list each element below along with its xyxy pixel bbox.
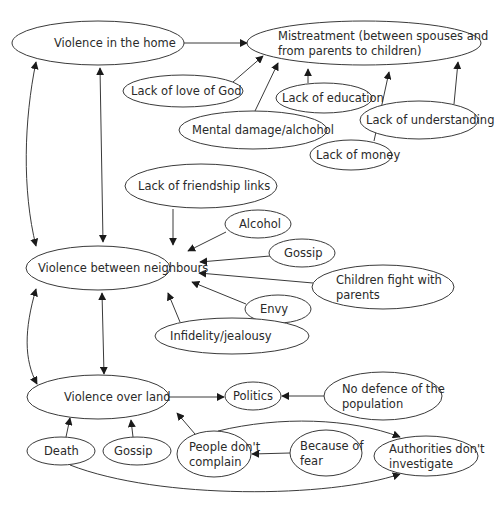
node-lack-education: Lack of education xyxy=(276,83,384,113)
edge-violence-home-to-violence-neighbours xyxy=(100,68,103,242)
edge-lack-understanding-to-mistreatment xyxy=(454,62,458,104)
node-label: Mental damage/alchohol xyxy=(192,123,334,137)
diagram-canvas: Violence in the homeMistreatment (betwee… xyxy=(0,0,503,509)
node-gossip-1: Gossip xyxy=(269,239,335,267)
node-label: Lack of understanding xyxy=(366,113,494,127)
node-lack-friendship: Lack of friendship links xyxy=(125,164,277,208)
node-label: Lack of friendship links xyxy=(138,179,270,193)
edge-mental-damage-to-mistreatment xyxy=(255,63,278,111)
node-label: investigate xyxy=(389,457,453,471)
node-violence-home: Violence in the home xyxy=(12,21,184,65)
node-lack-money: Lack of money xyxy=(310,140,400,170)
node-label: Mistreatment (between spouses and xyxy=(278,29,488,43)
node-label: Violence in the home xyxy=(54,36,176,50)
node-lack-understanding: Lack of understanding xyxy=(360,101,494,139)
edge-alcohol-to-violence-neighbours xyxy=(188,232,226,251)
node-label: Because of xyxy=(300,439,364,453)
node-no-defence: No defence of thepopulation xyxy=(324,372,445,420)
node-label: Envy xyxy=(260,302,288,316)
node-label: Children fight with xyxy=(336,273,442,287)
node-label: No defence of the xyxy=(342,382,445,396)
edge-gossip-1-to-violence-neighbours xyxy=(200,256,270,262)
edge-envy-to-violence-neighbours xyxy=(192,282,246,304)
node-label: Lack of love of God xyxy=(131,84,242,98)
edge-lack-love-god-to-mistreatment xyxy=(233,56,263,82)
node-because-fear: Because offear xyxy=(290,430,364,476)
edge-people-dont-complain-to-violence-land xyxy=(177,413,195,434)
node-infidelity: Infidelity/jealousy xyxy=(155,318,309,354)
node-mistreatment: Mistreatment (between spouses andfrom pa… xyxy=(247,21,488,65)
node-label: complain xyxy=(189,455,242,469)
edge-death-to-violence-land xyxy=(66,418,70,437)
node-label: Politics xyxy=(233,389,273,403)
node-violence-land: Violence over land xyxy=(27,375,171,419)
node-mental-damage: Mental damage/alchohol xyxy=(179,111,334,149)
node-label: Authorities don't xyxy=(389,442,485,456)
edge-violence-neighbours-to-violence-land xyxy=(27,289,37,384)
node-lack-love-god: Lack of love of God xyxy=(123,75,243,107)
nodes-layer: Violence in the homeMistreatment (betwee… xyxy=(12,21,494,477)
node-label: Lack of education xyxy=(282,91,384,105)
node-death: Death xyxy=(27,437,95,465)
node-label: from parents to children) xyxy=(278,44,422,58)
edge-infidelity-to-violence-neighbours xyxy=(168,293,180,322)
node-label: Violence over land xyxy=(64,390,171,404)
node-violence-neighbours: Violence between neighbours xyxy=(26,246,208,290)
node-label: Gossip xyxy=(284,246,322,260)
node-children-fight: Children fight withparents xyxy=(312,265,454,309)
node-label: fear xyxy=(300,454,323,468)
node-gossip-2: Gossip xyxy=(103,437,171,465)
edge-violence-neighbours-to-violence-land xyxy=(102,293,104,374)
node-label: Death xyxy=(44,444,79,458)
node-alcohol: Alcohol xyxy=(225,210,291,238)
edge-violence-home-to-violence-neighbours xyxy=(26,62,36,246)
node-label: population xyxy=(342,397,403,411)
node-people-dont-complain: People don'tcomplain xyxy=(177,431,261,477)
node-authorities: Authorities don'tinvestigate xyxy=(374,436,485,476)
node-politics: Politics xyxy=(225,382,281,410)
edge-gossip-2-to-violence-land xyxy=(131,420,133,437)
cause-effect-diagram: Violence in the homeMistreatment (betwee… xyxy=(0,0,503,509)
node-label: Alcohol xyxy=(239,217,281,231)
node-label: People don't xyxy=(189,440,261,454)
node-label: Lack of money xyxy=(316,148,400,162)
node-label: Violence between neighbours xyxy=(38,261,208,275)
node-label: Gossip xyxy=(114,444,152,458)
edge-children-fight-to-violence-neighbours xyxy=(199,273,313,283)
node-label: Infidelity/jealousy xyxy=(170,329,272,343)
node-label: parents xyxy=(336,288,380,302)
